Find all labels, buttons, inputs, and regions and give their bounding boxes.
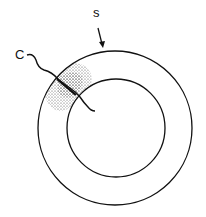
ring-diagram	[0, 0, 206, 217]
arrow-head-icon	[99, 41, 105, 48]
inner-circle	[67, 79, 165, 177]
label-c: C	[15, 48, 24, 61]
arrow-shaft	[98, 28, 102, 44]
label-s: s	[93, 6, 100, 19]
